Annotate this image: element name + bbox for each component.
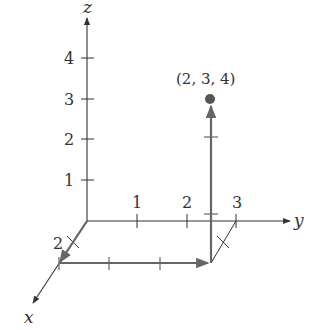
y-tick-label-3: 3 (232, 193, 242, 212)
z-tick-label-4: 4 (64, 49, 74, 68)
z-tick-label-3: 3 (64, 90, 74, 109)
z-tick-label-1: 1 (64, 171, 74, 190)
x-axis-label: x (24, 307, 34, 327)
path-vector-x (60, 221, 87, 262)
y-axis-label: y (293, 210, 304, 230)
guide-tick-x1-at-y3 (217, 236, 229, 248)
coordinate-diagram: 1 2 3 4 z 1 2 3 y 2 x (2, 3, 4) (0, 0, 321, 330)
z-tick-label-2: 2 (64, 130, 74, 149)
point-marker (205, 94, 215, 104)
y-tick-label-2: 2 (182, 193, 192, 212)
x-tick-label-2: 2 (53, 234, 63, 253)
y-tick-label-1: 1 (132, 193, 142, 212)
point-label: (2, 3, 4) (176, 70, 235, 88)
z-axis-label: z (82, 0, 93, 17)
